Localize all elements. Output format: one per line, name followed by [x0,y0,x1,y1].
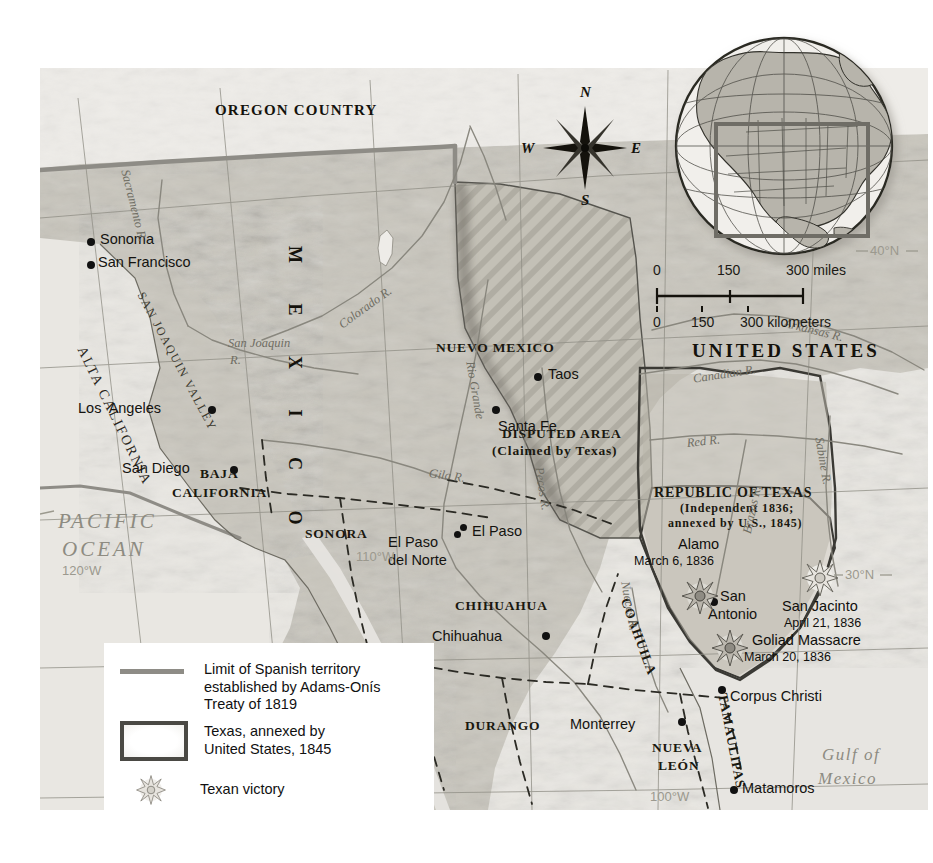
map-legend: Limit of Spanish territory established b… [104,643,434,810]
compass-star-icon [543,106,627,190]
label-battle-goliad-date: March 20, 1836 [744,650,831,664]
label-battle-san-jacinto-date: April 21, 1836 [784,616,861,630]
label-battle-alamo-date: March 6, 1836 [634,554,714,568]
scale-km-mid: 150 [691,314,714,330]
globe-inset [648,28,920,272]
legend-label-texan-victory: Texan victory [200,781,285,799]
scale-bar-graphic [653,282,873,316]
battle-marker-san-jacinto [800,558,840,598]
legend-label-adams-onis: Limit of Spanish territory established b… [204,661,381,714]
historical-map: OREGON COUNTRY UNITED STATES M E X I C O… [0,0,933,863]
compass-label-south: S [581,192,589,209]
legend-swatch-line-icon [120,669,184,674]
label-battle-san-jacinto: San Jacinto [782,598,858,614]
legend-label-texas-annexed: Texas, annexed by United States, 1845 [204,723,331,758]
compass-label-east: E [631,140,641,157]
legend-item-texas-annexed: Texas, annexed by United States, 1845 [120,721,331,761]
legend-item-texan-victory: Texan victory [120,773,285,807]
label-battle-goliad: Goliad Massacre [752,632,861,648]
battle-marker-alamo [680,576,720,616]
compass-label-west: W [521,140,534,157]
compass-label-north: N [580,84,591,101]
label-battle-alamo: Alamo [678,536,719,552]
legend-swatch-box-icon [120,721,188,761]
legend-swatch-texan-burst-icon [134,773,168,807]
scale-km-zero: 0 [653,314,661,330]
compass-rose: N S W E [525,88,645,208]
scale-km-max: 300 kilometers [740,314,831,330]
legend-item-adams-onis: Limit of Spanish territory established b… [120,661,381,714]
